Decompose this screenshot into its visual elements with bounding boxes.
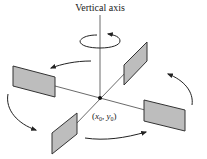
arrow-bottom [85,132,146,139]
center-point [98,96,102,100]
center-point-label: (x0, y0) [92,111,117,122]
rotation-diagram: Vertical axis (x0, y0) [0,0,207,159]
right-panel [144,100,185,131]
left-panel [13,66,55,97]
arrow-top [51,61,91,68]
vertical-axis-label: Vertical axis [75,2,125,13]
bottom-left-panel [52,113,77,154]
top-right-panel [124,42,147,85]
arrow-left [8,94,36,130]
arrow-right [168,74,192,105]
